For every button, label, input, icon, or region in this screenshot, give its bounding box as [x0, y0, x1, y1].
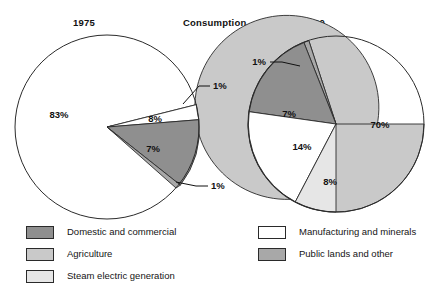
legend-label-domestic-and-commercial: Domestic and commercial	[67, 227, 176, 237]
legend-label-steam-electric-generation: Steam electric generation	[67, 271, 175, 281]
label-2000-steam: 8%	[323, 176, 337, 187]
label-2000-manufacturing: 14%	[292, 141, 312, 152]
legend-label-public-lands-and-other: Public lands and other	[299, 249, 393, 259]
legend-label-agriculture: Agriculture	[67, 249, 112, 259]
legend-swatch-manufacturing-and-minerals	[258, 226, 286, 239]
legend-item-manufacturing-and-minerals[interactable]: Manufacturing and minerals	[258, 223, 416, 241]
label-2000-agriculture: 70%	[370, 119, 390, 130]
label-1975-manufacturing: 8%	[148, 113, 162, 124]
legend-swatch-domestic-and-commercial	[26, 226, 54, 239]
legend-right: Manufacturing and minerals Public lands …	[258, 223, 416, 267]
legend-left: Domestic and commercial Agriculture Stea…	[26, 223, 176, 289]
callout-1975-public-lands: 1%	[211, 180, 225, 191]
label-1975-domestic: 7%	[146, 143, 160, 154]
callout-1975-steam: 1%	[213, 80, 227, 91]
legend-item-agriculture[interactable]: Agriculture	[26, 245, 176, 263]
legend-swatch-agriculture	[26, 248, 54, 261]
legend-label-manufacturing-and-minerals: Manufacturing and minerals	[299, 227, 416, 237]
label-2000-domestic: 7%	[282, 108, 296, 119]
legend-swatch-steam-electric-generation	[26, 270, 54, 283]
label-1975-agriculture: 83%	[49, 109, 69, 120]
legend-swatch-public-lands-and-other	[258, 248, 286, 261]
legend-item-domestic-and-commercial[interactable]: Domestic and commercial	[26, 223, 176, 241]
legend-item-steam-electric-generation[interactable]: Steam electric generation	[26, 267, 176, 285]
legend-item-public-lands-and-other[interactable]: Public lands and other	[258, 245, 416, 263]
figure-root: 1975 Consumption 2000 83% 8% 7% 1%	[0, 0, 443, 289]
callout-2000-public-lands: 1%	[252, 56, 266, 67]
